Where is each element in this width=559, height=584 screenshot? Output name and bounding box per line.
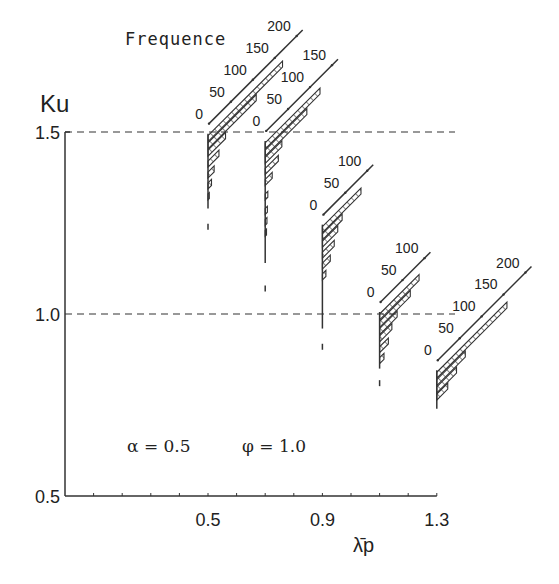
frequency-tick <box>208 122 210 124</box>
frequency-tick-label: 0 <box>195 106 203 122</box>
frequency-tick <box>366 170 368 172</box>
frequency-histogram-chart: 0.50.91.30.51.01.5 050100150200050100150… <box>0 0 559 584</box>
frequency-tick-label: 50 <box>438 320 454 336</box>
frequency-tick-label: 100 <box>281 69 305 85</box>
frequency-tick-label: 100 <box>338 153 362 169</box>
x-tick-label: 0.5 <box>195 510 220 530</box>
frequency-tick-label: 0 <box>310 197 318 213</box>
y-tick-label: 1.0 <box>35 305 60 325</box>
frequency-tick-label: 100 <box>452 298 476 314</box>
frequency-tick <box>309 86 311 88</box>
frequency-tick <box>459 337 461 339</box>
x-tick-label: 0.9 <box>310 510 335 530</box>
frequency-tick-label: 0 <box>424 342 432 358</box>
frequency-tick <box>274 57 276 59</box>
frequency-tick <box>344 192 346 194</box>
frequency-tick-label: 150 <box>303 47 327 63</box>
frequency-tick <box>331 64 333 66</box>
frequency-tick-label: 100 <box>395 240 419 256</box>
frequency-tick <box>287 108 289 110</box>
histogram-bin <box>208 166 214 178</box>
x-tick-label: 1.3 <box>424 510 449 530</box>
frequency-tick <box>230 101 232 103</box>
histograms: 0501001502000501001500501000501000501001… <box>195 18 531 409</box>
frequency-tick-label: 50 <box>209 84 225 100</box>
frequency-tick <box>322 213 324 215</box>
histogram-bin <box>265 172 272 185</box>
annotation-alpha: α = 0.5 <box>127 436 191 456</box>
frequency-tick <box>379 301 381 303</box>
y-tick-label: 1.5 <box>35 123 60 143</box>
frequency-tick-label: 150 <box>245 40 269 56</box>
frequency-tick <box>524 271 526 273</box>
frequency-tick <box>423 257 425 259</box>
histogram-bin <box>208 95 256 149</box>
frequency-tick <box>502 293 504 295</box>
histogram-1.3: 050100150200 <box>424 255 531 409</box>
frequency-tick-label: 0 <box>367 284 375 300</box>
frequency-tick <box>437 359 439 361</box>
frequency-label: Frequence <box>125 29 226 49</box>
annotation-phi: φ = 1.0 <box>242 436 306 456</box>
frequency-tick-label: 50 <box>324 175 340 191</box>
frequency-tick-label: 50 <box>381 262 397 278</box>
frequency-tick <box>295 35 297 37</box>
histogram-0.9: 050100 <box>310 153 374 350</box>
y-axis-label: Ku <box>40 90 69 117</box>
histogram-1.1: 050100 <box>367 240 431 386</box>
frequency-tick-label: 200 <box>267 18 291 34</box>
frequency-tick-label: 50 <box>267 91 283 107</box>
frequency-tick <box>252 79 254 81</box>
frequency-tick <box>401 279 403 281</box>
x-axis-label: λ̄p <box>353 534 374 556</box>
frequency-tick-label: 200 <box>496 255 520 271</box>
frequency-tick <box>480 315 482 317</box>
frequency-tick-label: 150 <box>474 276 498 292</box>
frequency-tick-label: 100 <box>223 62 247 78</box>
frequency-tick-label: 0 <box>252 113 260 129</box>
frequency-tick <box>265 130 267 132</box>
y-tick-label: 0.5 <box>35 487 60 507</box>
